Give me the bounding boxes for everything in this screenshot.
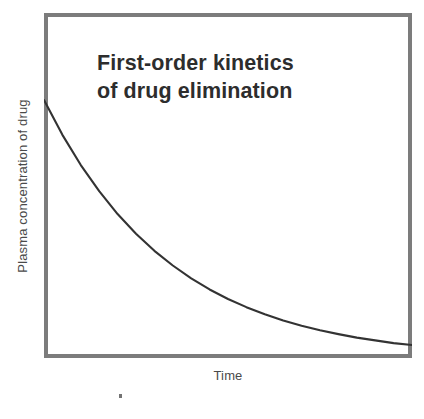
scan-speck-artifact: [119, 394, 122, 398]
x-axis-label: Time: [44, 368, 412, 383]
chart-title: First-order kinetics of drug elimination: [97, 49, 397, 105]
decay-curve-path: [44, 100, 412, 345]
y-axis-label: Plasma concentration of drug: [15, 99, 30, 272]
figure-root: First-order kinetics of drug elimination…: [0, 0, 424, 419]
y-axis-label-wrap: Plasma concentration of drug: [0, 13, 44, 358]
